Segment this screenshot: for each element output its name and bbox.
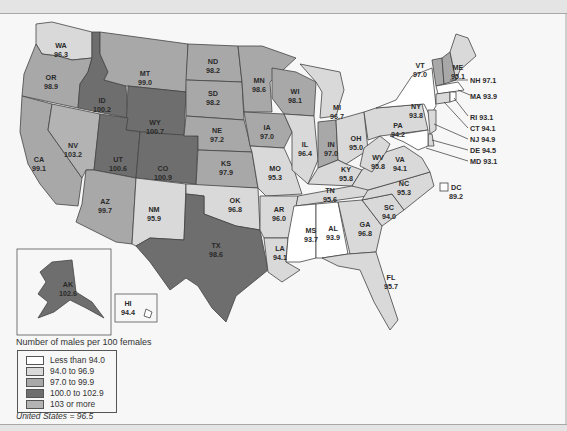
label-ia-abbr: IA	[263, 123, 270, 132]
label-ca-abbr: CA	[34, 155, 44, 164]
label-ak-value: 102.6	[59, 289, 77, 298]
label-ky-value: 95.8	[339, 174, 353, 183]
legend-label: 97.0 to 99.9	[50, 377, 94, 387]
callout-de: DE 94.5	[470, 146, 496, 155]
label-nv-value: 103.2	[64, 150, 82, 159]
label-wy-abbr: WY	[149, 118, 161, 127]
label-mi-abbr: MI	[333, 103, 341, 112]
label-il-abbr: IL	[302, 140, 309, 149]
dc-swatch[interactable]	[440, 183, 448, 191]
legend-item: Less than 94.0	[26, 355, 105, 365]
label-in-abbr: IN	[327, 140, 334, 149]
label-fl-abbr: FL	[387, 273, 396, 282]
state-ri[interactable]	[450, 92, 456, 102]
callout-nh: NH 97.1	[470, 76, 496, 85]
legend-swatch	[26, 367, 44, 376]
label-ok-abbr: OK	[230, 196, 242, 205]
label-wa-value: 96.3	[54, 50, 68, 59]
legend-item: 103 or more	[26, 399, 95, 409]
label-hi-value: 94.4	[121, 308, 135, 317]
label-id-value: 100.2	[93, 105, 111, 114]
label-ut-abbr: UT	[113, 155, 123, 164]
callout-ma: MA 93.9	[470, 92, 497, 101]
label-me-abbr: ME	[453, 63, 464, 72]
legend-label: 103 or more	[50, 399, 95, 409]
label-nm-abbr: NM	[148, 205, 159, 214]
label-va-value: 94.1	[393, 164, 407, 173]
leader-ri	[454, 98, 468, 116]
label-tn-value: 95.6	[323, 195, 337, 204]
label-id-abbr: ID	[98, 96, 105, 105]
label-ok-value: 96.8	[228, 205, 242, 214]
label-mo-abbr: MO	[269, 164, 281, 173]
label-va-abbr: VA	[395, 155, 404, 164]
label-ak-abbr: AK	[63, 280, 74, 289]
label-oh-value: 95.0	[349, 143, 363, 152]
state-fl[interactable]	[322, 252, 398, 330]
label-oh-abbr: OH	[351, 134, 362, 143]
label-la-value: 94.1	[273, 253, 287, 262]
label-wi-value: 98.1	[288, 96, 302, 105]
label-nc-abbr: NC	[399, 179, 409, 188]
label-pa-value: 94.2	[391, 130, 405, 139]
label-ga-abbr: GA	[360, 220, 371, 229]
label-hi-abbr: HI	[124, 299, 131, 308]
label-ky-abbr: KY	[341, 165, 351, 174]
label-co-abbr: CO	[158, 164, 169, 173]
label-az-value: 99.7	[98, 206, 112, 215]
label-sc-value: 94.0	[382, 212, 396, 221]
label-nd-abbr: ND	[208, 57, 218, 66]
label-mn-value: 98.6	[252, 85, 266, 94]
state-nj[interactable]	[428, 110, 436, 134]
label-ar-abbr: AR	[274, 205, 285, 214]
label-wv-abbr: WV	[372, 153, 384, 162]
label-in-value: 97.0	[324, 149, 338, 158]
label-wi-abbr: WI	[291, 87, 300, 96]
label-wy-value: 100.7	[146, 127, 164, 136]
label-al-value: 93.9	[326, 233, 340, 242]
label-sc-abbr: SC	[384, 203, 394, 212]
legend-label: 94.0 to 96.9	[50, 366, 94, 376]
label-co-value: 100.9	[154, 173, 172, 182]
label-pa-abbr: PA	[393, 121, 402, 130]
state-ct[interactable]	[436, 92, 450, 104]
label-or-abbr: OR	[46, 73, 58, 82]
label-mi-value: 96.7	[330, 112, 344, 121]
label-al-abbr: AL	[328, 224, 338, 233]
label-il-value: 96.4	[298, 149, 312, 158]
label-ny-abbr: NY	[411, 102, 421, 111]
legend-swatch	[26, 400, 44, 409]
top-frame-band	[0, 0, 567, 14]
us-average-note: United States = 96.5	[16, 411, 93, 421]
label-nv-abbr: NV	[68, 141, 78, 150]
legend-swatch	[26, 378, 44, 387]
label-or-value: 98.9	[44, 82, 58, 91]
label-me-value: 95.1	[451, 72, 465, 81]
leader-nj	[434, 124, 468, 139]
callout-ct: CT 94.1	[470, 124, 496, 133]
label-nc-value: 95.3	[397, 188, 411, 197]
legend-swatch	[26, 389, 44, 398]
label-ne-abbr: NE	[212, 126, 222, 135]
legend-label: 100.0 to 102.9	[50, 388, 104, 398]
label-mn-abbr: MN	[253, 76, 264, 85]
label-la-abbr: LA	[275, 244, 285, 253]
label-ny-value: 93.8	[409, 111, 423, 120]
label-mt-value: 99.0	[138, 78, 152, 87]
label-ut-value: 100.6	[109, 164, 127, 173]
label-wa-abbr: WA	[55, 41, 67, 50]
label-ms-value: 93.7	[304, 235, 318, 244]
label-dc-value: 89.2	[449, 192, 463, 201]
callout-nj: NJ 94.9	[470, 135, 495, 144]
leader-ct	[444, 102, 468, 128]
legend-item: 94.0 to 96.9	[26, 366, 94, 376]
label-nd-value: 98.2	[206, 66, 220, 75]
label-tx-value: 98.6	[209, 250, 223, 259]
legend-title: Number of males per 100 females	[16, 337, 152, 347]
legend: Less than 94.0 94.0 to 96.9 97.0 to 99.9…	[17, 350, 117, 413]
legend-item: 97.0 to 99.9	[26, 377, 94, 387]
label-ia-value: 97.0	[260, 132, 274, 141]
label-dc-abbr: DC	[451, 183, 461, 192]
label-az-abbr: AZ	[100, 197, 110, 206]
label-ga-value: 96.8	[358, 229, 372, 238]
